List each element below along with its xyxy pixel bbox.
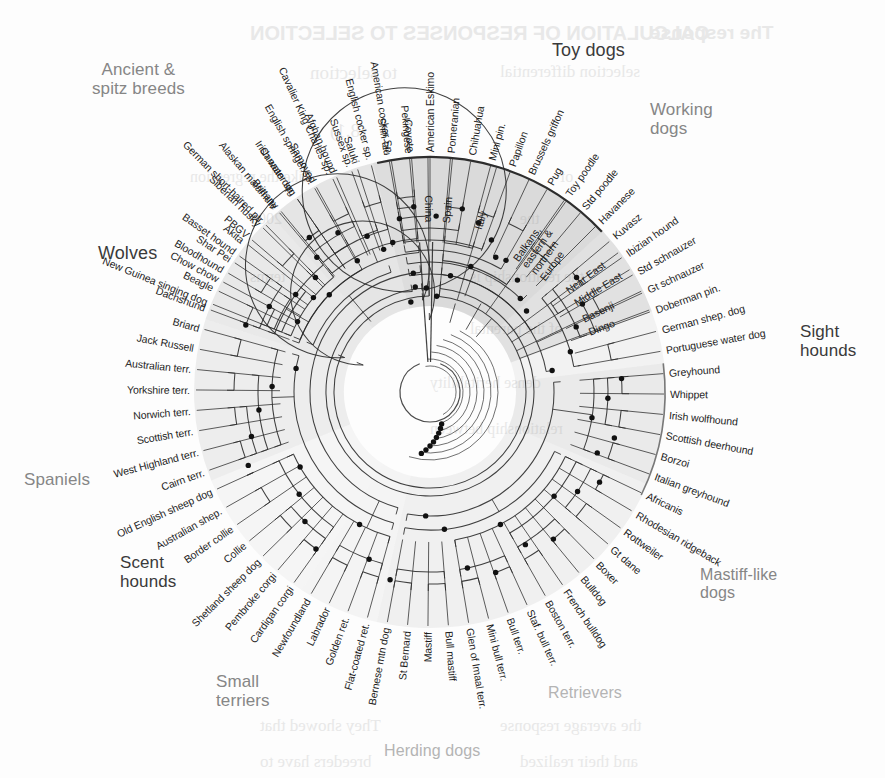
group-label-sight-hounds: Sight hounds — [800, 322, 856, 360]
group-label-working-dogs: Working dogs — [650, 100, 713, 138]
group-label-scent-hounds: Scent hounds — [120, 553, 176, 591]
group-label-retrievers: Retrievers — [548, 684, 622, 702]
group-label-spaniels: Spaniels — [24, 470, 90, 489]
group-label-wolves: Wolves — [98, 243, 157, 263]
group-label-small-terriers: Small terriers — [216, 672, 270, 710]
group-label-ancient-spitz-breeds: Ancient & spitz breeds — [92, 60, 185, 98]
dog-phylogeny-figure: CALCULATION OF RESPONSES TO SELECTIONThe… — [0, 0, 885, 778]
group-label-layer: Ancient & spitz breedsToy dogsWorking do… — [0, 0, 885, 778]
group-label-mastiff-like-dogs: Mastiff-like dogs — [700, 566, 777, 602]
group-label-toy-dogs: Toy dogs — [552, 40, 625, 60]
group-label-herding-dogs: Herding dogs — [384, 742, 480, 760]
